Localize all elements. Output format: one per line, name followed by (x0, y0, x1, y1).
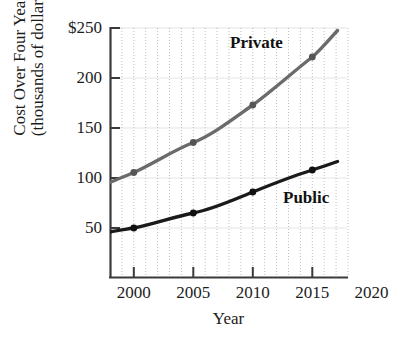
y-tick-label-250: $250 (36, 18, 102, 38)
x-tick-label-2005: 2005 (176, 283, 210, 303)
series-label-private: Private (230, 33, 283, 53)
x-tick-label-2015: 2015 (295, 283, 329, 303)
x-tick-label-2010: 2010 (236, 283, 270, 303)
y-tick-label-150: 150 (36, 118, 102, 138)
y-tick-label-50: 50 (36, 218, 102, 238)
x-tick-label-2000: 2000 (117, 283, 151, 303)
series-label-public: Public (283, 188, 329, 208)
chart-figure: Cost Over Four Years (thousands of dolla… (0, 0, 398, 342)
vertical-gridlines (122, 28, 348, 277)
y-tick-label-200: 200 (36, 68, 102, 88)
series-line-private (110, 31, 338, 183)
x-tick-label-2020: 2020 (355, 283, 389, 303)
x-tick-marks (134, 267, 312, 277)
y-tick-label-100: 100 (36, 168, 102, 188)
series-markers-private (130, 54, 315, 176)
